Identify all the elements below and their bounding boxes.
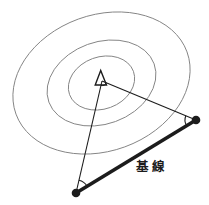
baseline-label: 基線: [135, 159, 168, 174]
left-observer-angle-arc: [79, 180, 87, 186]
baseline-segment: [76, 120, 196, 193]
contour-ellipse-outer: [0, 0, 209, 178]
distance-contours: [0, 0, 209, 178]
left-observer-dot-icon: [72, 189, 81, 198]
right-observer-dot-icon: [192, 116, 201, 125]
diagram-canvas: 基線: [0, 0, 209, 205]
right-observer-angle-arc: [185, 116, 187, 126]
sight-line-left-observer: [76, 81, 102, 193]
parallax-triangulation-diagram: 基線: [0, 0, 209, 205]
target-triangle-icon: [95, 71, 106, 86]
